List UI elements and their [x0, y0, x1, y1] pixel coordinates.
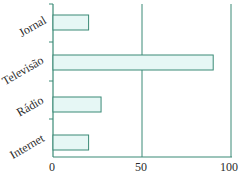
bar-rádio [53, 97, 101, 112]
bar-televisão [53, 55, 213, 70]
bar-jornal [53, 15, 89, 30]
x-tick-50: 50 [135, 160, 147, 175]
x-tick-0: 0 [49, 160, 55, 175]
horizontal-bar-chart: Jornal Televisão Rádio Internet 0 50 100 [0, 0, 243, 181]
bar-internet [53, 135, 89, 150]
x-tick-100: 100 [220, 160, 238, 175]
